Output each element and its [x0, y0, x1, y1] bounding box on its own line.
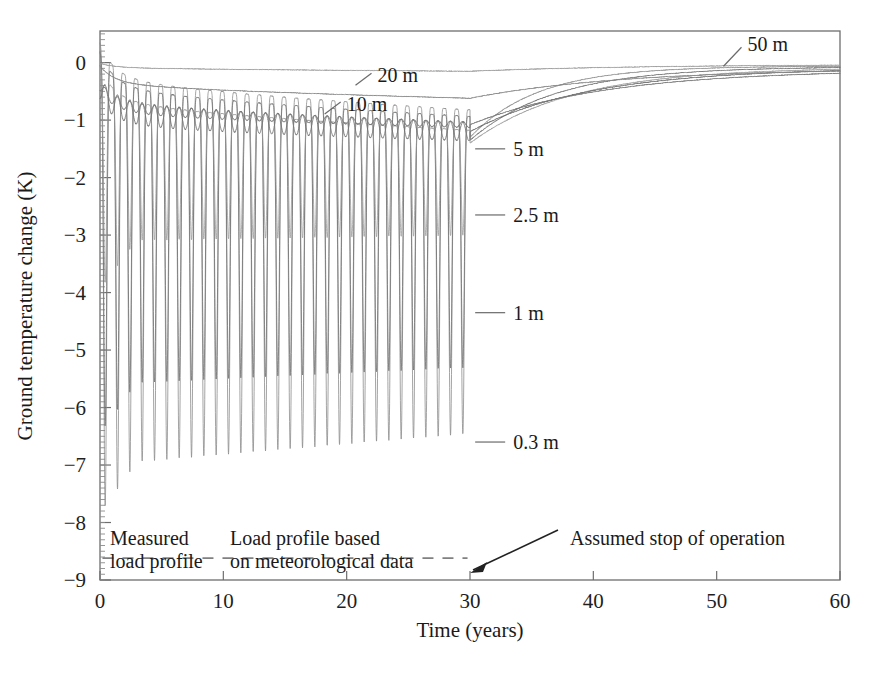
- y-tick-label: 0: [76, 51, 87, 75]
- annotation-measured-line2: load profile: [110, 550, 203, 573]
- series-label-1-m: 1 m: [513, 302, 544, 324]
- annotation-stop-of-operation: Assumed stop of operation: [570, 527, 785, 550]
- y-tick-label: −6: [64, 396, 86, 420]
- y-tick-label: −7: [64, 453, 86, 477]
- annotation-meteo-line2: on meteorological data: [230, 550, 413, 573]
- y-axis-title: Ground temperature change (K): [13, 172, 37, 441]
- series-label-5-m: 5 m: [513, 138, 544, 160]
- series-label-20-m: 20 m: [378, 64, 419, 86]
- y-tick-label: −8: [64, 511, 86, 535]
- x-axis-ticks: [100, 571, 840, 580]
- series-label-50-m: 50 m: [748, 33, 789, 55]
- data-series-curves: [100, 43, 840, 506]
- x-tick-label: 10: [213, 589, 234, 613]
- series-label-10-m: 10 m: [347, 93, 388, 115]
- y-tick-label: −4: [64, 281, 87, 305]
- x-tick-label: 60: [830, 589, 851, 613]
- y-tick-label: −2: [64, 166, 86, 190]
- y-tick-label: −9: [64, 568, 86, 592]
- x-axis-tick-labels: 0102030405060: [95, 589, 851, 613]
- series-label-2-5-m: 2.5 m: [513, 204, 559, 226]
- figure-container: 0102030405060 0−1−2−3−4−5−6−7−8−9 0.3 m1…: [0, 0, 881, 681]
- series-label-0-3-m: 0.3 m: [513, 431, 559, 453]
- x-tick-label: 40: [583, 589, 604, 613]
- x-axis-title: Time (years): [416, 618, 523, 642]
- y-tick-label: −5: [64, 338, 86, 362]
- assumed-stop-arrow: [470, 530, 558, 573]
- x-tick-label: 0: [95, 589, 106, 613]
- ground-temperature-chart: 0102030405060 0−1−2−3−4−5−6−7−8−9 0.3 m1…: [0, 0, 881, 681]
- annotation-meteo-line1: Load profile based: [230, 527, 380, 550]
- y-tick-label: −3: [64, 223, 86, 247]
- y-axis-tick-labels: 0−1−2−3−4−5−6−7−8−9: [64, 51, 87, 592]
- x-tick-label: 50: [706, 589, 727, 613]
- x-tick-label: 30: [460, 589, 481, 613]
- x-tick-label: 20: [336, 589, 357, 613]
- y-tick-label: −1: [64, 108, 86, 132]
- annotation-measured-line1: Measured: [110, 527, 189, 549]
- curve-1-m: [100, 52, 840, 426]
